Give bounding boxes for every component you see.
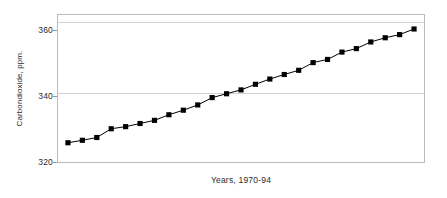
data-point-1992: [383, 35, 388, 40]
x-axis-title: Years, 1970-94: [57, 175, 425, 185]
data-point-1970: [65, 140, 70, 145]
chart-figure: Carbondioxide, ppm. 360 340 320 Years, 1…: [0, 0, 447, 198]
y-tick-label-360: 360: [5, 26, 53, 35]
data-point-1973: [109, 126, 114, 131]
data-point-1982: [238, 87, 243, 92]
data-point-1975: [137, 121, 142, 126]
data-point-1994: [411, 26, 416, 31]
y-tick-label-340: 340: [5, 92, 53, 101]
data-point-1971: [80, 138, 85, 143]
data-point-1993: [397, 32, 402, 37]
data-point-1991: [368, 39, 373, 44]
data-point-1981: [224, 91, 229, 96]
data-point-1986: [296, 68, 301, 73]
data-point-1976: [152, 118, 157, 123]
data-point-1978: [181, 108, 186, 113]
data-point-1990: [354, 46, 359, 51]
y-axis-ticks: 360 340 320: [0, 0, 53, 198]
data-point-1974: [123, 124, 128, 129]
data-point-1983: [253, 82, 258, 87]
data-point-1972: [94, 135, 99, 140]
series-carbon-dioxide: [58, 15, 424, 162]
data-point-1987: [311, 60, 316, 65]
data-point-1988: [325, 57, 330, 62]
data-point-1985: [282, 72, 287, 77]
data-point-1989: [339, 50, 344, 55]
data-point-1977: [166, 112, 171, 117]
series-line: [68, 29, 414, 143]
data-point-1980: [210, 95, 215, 100]
y-tick-label-320: 320: [5, 158, 53, 167]
data-point-1979: [195, 102, 200, 107]
data-point-1984: [267, 76, 272, 81]
plot-area: [57, 14, 425, 163]
